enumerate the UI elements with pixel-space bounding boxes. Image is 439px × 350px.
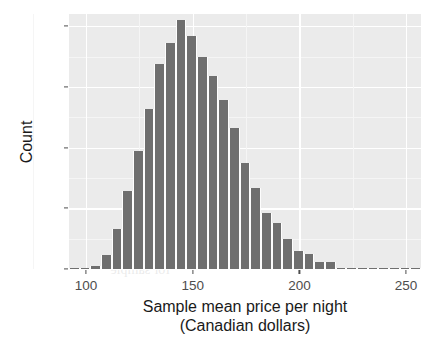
x-tick-mark (299, 270, 300, 274)
x-axis-title-line2: (Canadian dollars) (69, 316, 421, 335)
x-tick-label: 250 (395, 278, 418, 293)
x-tick-mark (85, 270, 86, 274)
x-tick-label: 100 (75, 278, 98, 293)
x-axis-title: Sample mean price per night (Canadian do… (69, 297, 421, 335)
x-tick-label: 150 (181, 278, 204, 293)
y-axis-title: Count (18, 121, 36, 164)
x-tick-label: 200 (288, 278, 311, 293)
histogram-figure: Sample mean price per night (Canadian do… (0, 0, 439, 350)
x-tick-mark (192, 270, 193, 274)
x-axis-title-line1: Sample mean price per night (69, 297, 421, 316)
x-tick-mark (405, 270, 406, 274)
